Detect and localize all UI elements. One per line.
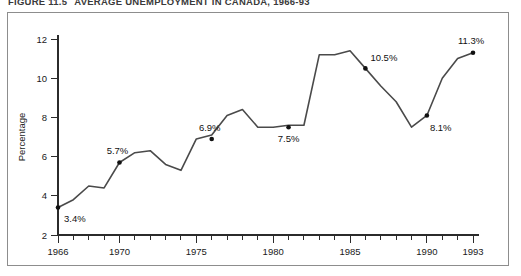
x-tick-label: 1990 [416, 246, 437, 257]
data-point-marker [363, 66, 368, 71]
y-tick-label: 12 [36, 34, 47, 45]
y-tick-label: 10 [36, 73, 47, 84]
figure-root: FIGURE 11.5AVERAGE UNEMPLOYMENT IN CANAD… [0, 0, 521, 276]
y-axis-title-label: Percentage [16, 113, 27, 162]
figure-caption-title: AVERAGE UNEMPLOYMENT IN CANADA, 1966-93 [74, 0, 310, 7]
data-point-labels: 3.4%5.7%6.9%7.5%10.5%8.1%11.3% [64, 35, 485, 224]
y-tick-label: 6 [42, 151, 47, 162]
data-point-marker [209, 137, 214, 142]
x-tick-label: 1970 [109, 246, 130, 257]
data-point-marker [56, 205, 61, 210]
x-tick-label: 1975 [186, 246, 207, 257]
x-tick-label: 1966 [47, 246, 68, 257]
y-tick-label: 8 [42, 112, 47, 123]
data-point-label: 8.1% [430, 122, 452, 133]
x-tick-label: 1985 [339, 246, 360, 257]
data-point-marker [286, 125, 291, 130]
series-line-average-unemployment-rate [58, 51, 473, 208]
data-series [58, 51, 473, 208]
data-point-label: 6.9% [199, 122, 221, 133]
data-point-marker [471, 50, 476, 55]
data-point-label: 10.5% [370, 52, 397, 63]
data-point-label: 3.4% [64, 213, 86, 224]
chart-frame: 24681012 1966197019751980198519901993 3.… [7, 12, 509, 266]
line-chart: 24681012 1966197019751980198519901993 3.… [8, 13, 508, 265]
y-axis: 24681012 [36, 34, 58, 241]
data-point-label: 7.5% [278, 133, 300, 144]
y-tick-label: 2 [42, 230, 47, 241]
data-point-marker [425, 113, 430, 118]
x-tick-label: 1980 [263, 246, 284, 257]
figure-caption-number: FIGURE 11.5 [8, 0, 67, 7]
data-markers [56, 50, 476, 209]
data-point-marker [117, 160, 122, 165]
y-axis-title: Percentage [16, 113, 27, 162]
y-tick-label: 4 [42, 190, 47, 201]
data-point-label: 5.7% [107, 145, 129, 156]
x-tick-label: 1993 [462, 246, 483, 257]
x-axis: 1966197019751980198519901993 [47, 235, 483, 257]
data-point-label: 11.3% [458, 35, 485, 46]
figure-caption: FIGURE 11.5AVERAGE UNEMPLOYMENT IN CANAD… [8, 0, 508, 9]
